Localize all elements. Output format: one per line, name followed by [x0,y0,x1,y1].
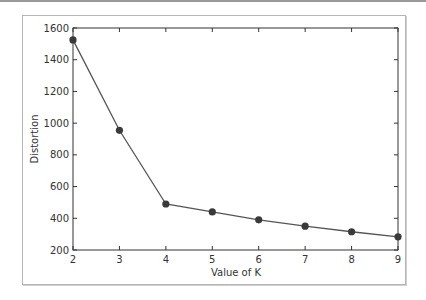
data-point-marker [348,228,355,235]
data-point-marker [209,208,216,215]
x-tick-label: 9 [395,254,401,265]
plot-area [73,28,398,250]
elbow-line-chart: 2004006008001000120014001600 23456789 Va… [0,0,426,300]
x-axis-title: Value of K [211,267,261,278]
data-point-marker [302,223,309,230]
y-tick-label: 800 [50,149,69,160]
data-point-marker [69,36,76,43]
data-point-marker [162,200,169,207]
y-axis-title: Distortion [29,115,40,164]
y-tick-label: 1000 [44,118,69,129]
x-tick-label: 5 [209,254,215,265]
data-point-marker [394,233,401,240]
x-tick-label: 3 [116,254,122,265]
x-tick-label: 2 [70,254,76,265]
x-tick-label: 8 [348,254,354,265]
x-tick-label: 6 [256,254,262,265]
x-tick-label: 7 [302,254,308,265]
y-tick-label: 1400 [44,54,69,65]
y-tick-label: 600 [50,181,69,192]
y-tick-label: 400 [50,213,69,224]
data-point-marker [255,216,262,223]
y-tick-label: 1600 [44,23,69,34]
data-point-marker [116,127,123,134]
y-tick-label: 1200 [44,86,69,97]
x-tick-label: 4 [163,254,169,265]
y-tick-label: 200 [50,245,69,256]
